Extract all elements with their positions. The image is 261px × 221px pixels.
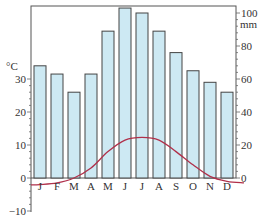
month-label: N [206,180,214,192]
precipitation-bar [85,74,97,178]
month-label: J [123,180,128,192]
month-label: F [54,180,60,192]
right-tick-label: 80 [241,40,253,52]
precipitation-bar [153,31,165,178]
month-label: D [223,180,231,192]
precipitation-bar [170,53,182,178]
month-label: A [155,180,163,192]
month-label: J [140,180,145,192]
month-label: O [189,180,197,192]
precipitation-bar [51,74,63,178]
precipitation-bar [34,66,46,178]
left-tick-label: 30 [15,73,27,85]
precipitation-bar [204,82,216,178]
right-axis-precipitation: 100806040200 [236,7,258,184]
month-label: M [103,180,113,192]
right-axis-unit: mm [240,18,258,30]
precipitation-bars [34,8,233,178]
month-label: M [69,180,79,192]
precipitation-bar [119,8,131,178]
left-axis-unit: °C [6,60,18,72]
left-tick-label: 0 [21,172,27,184]
precipitation-bar [68,92,80,178]
climate-chart: 3020100−10 100806040200 JFMAMJJASOND °C … [0,0,261,221]
month-label: J [38,180,43,192]
right-tick-label: 60 [241,73,253,85]
precipitation-bar [221,92,233,178]
left-tick-label: −10 [9,205,27,217]
right-tick-label: 20 [241,139,253,151]
left-tick-label: 20 [15,106,27,118]
precipitation-bar [136,13,148,178]
month-labels: JFMAMJJASOND [38,180,231,192]
left-axis-temperature: 3020100−10 [9,73,31,217]
month-label: A [87,180,95,192]
right-tick-label: 40 [241,106,253,118]
month-label: S [173,180,179,192]
left-tick-label: 10 [15,139,27,151]
